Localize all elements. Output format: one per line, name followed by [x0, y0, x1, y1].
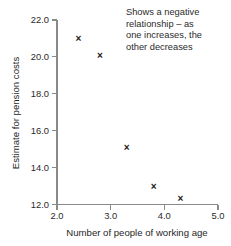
data-point-marker: ×: [76, 33, 82, 44]
y-tick-label: 18.0: [31, 88, 49, 99]
y-tick-label: 12.0: [31, 199, 49, 210]
data-point-marker: ×: [151, 181, 157, 192]
x-axis-ticks: [57, 205, 218, 210]
y-tick-label: 16.0: [31, 125, 49, 136]
x-tick-label: 5.0: [211, 210, 224, 221]
chart-annotation: Shows a negative relationship – as one i…: [126, 7, 226, 53]
x-tick-label: 3.0: [104, 210, 117, 221]
y-tick-label: 14.0: [31, 162, 49, 173]
x-axis: 2.03.04.05.0: [50, 205, 224, 222]
y-axis-title: Estimate for pension costs: [10, 57, 21, 170]
x-tick-label: 2.0: [50, 210, 63, 221]
data-point-marker: ×: [124, 142, 130, 153]
x-axis-title: Number of people of working age: [66, 227, 207, 238]
y-tick-label: 22.0: [31, 14, 49, 25]
x-tick-label: 4.0: [158, 210, 171, 221]
scatter-plot-figure: 12.014.016.018.020.022.0 2.03.04.05.0 ××…: [0, 0, 231, 246]
data-point-series: ×××××: [76, 33, 184, 205]
x-axis-tick-labels: 2.03.04.05.0: [50, 210, 224, 221]
y-tick-label: 20.0: [31, 51, 49, 62]
data-point-marker: ×: [97, 50, 103, 61]
y-axis-tick-labels: 12.014.016.018.020.022.0: [31, 14, 49, 210]
y-axis: 12.014.016.018.020.022.0: [31, 14, 57, 210]
y-axis-ticks: [52, 20, 57, 205]
data-point-marker: ×: [178, 193, 184, 204]
